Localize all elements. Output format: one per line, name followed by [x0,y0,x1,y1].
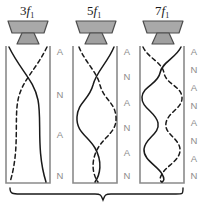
mark-label: A [57,46,64,57]
mark-label: N [124,122,131,133]
mark-label: N [124,71,131,82]
wave-dashed-5f1 [79,47,116,182]
harmonic-label-3f1: 3f1 [20,3,34,20]
bottom-brace [10,188,183,200]
harmonic-label-5f1: 5f1 [87,3,101,20]
speaker-base-7f1 [152,33,174,44]
tube-wall-3f1 [6,46,50,183]
standing-wave-figure: 3f1 A N A N 5f1 [0,0,207,202]
tube-group-5f1: 5f1 A N A N A N [73,3,131,183]
speaker-icon [76,21,116,44]
speaker-cone-7f1 [143,21,183,33]
mark-label: N [57,170,64,181]
harmonic-label-7f1: 7f1 [155,3,169,20]
wave-solid-7f1 [142,47,181,182]
speaker-base-5f1 [85,33,107,44]
figure-canvas: 3f1 A N A N 5f1 [0,0,207,202]
mark-label: A [124,97,131,108]
mark-label: A [191,82,198,93]
mark-label: N [191,100,198,111]
speaker-cone-3f1 [8,21,48,33]
mark-label: A [191,46,198,57]
mark-label: N [57,89,64,100]
mark-label: A [124,147,131,158]
tube-wall-5f1 [73,46,117,183]
mark-label: A [124,46,131,57]
speaker-icon [8,21,48,44]
speaker-icon [143,21,183,44]
tube-group-3f1: 3f1 A N A N [6,3,64,183]
brace-path [10,188,183,200]
mark-label: N [191,170,198,181]
mark-label: N [191,64,198,75]
mark-label: A [191,117,198,128]
mark-label: A [57,129,64,140]
mark-label: N [124,170,131,181]
mark-label: A [191,153,198,164]
speaker-base-3f1 [17,33,39,44]
tube-group-7f1: 7f1 A N A N A N A N [140,3,198,183]
mark-label: N [191,135,198,146]
wave-solid-5f1 [77,47,114,182]
speaker-cone-5f1 [76,21,116,33]
